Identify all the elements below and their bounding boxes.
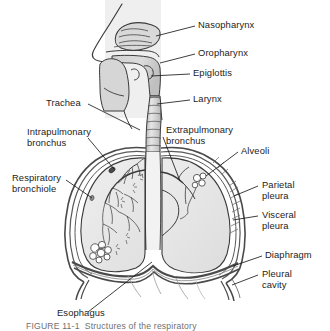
label-alveoli: Alveoli [241, 146, 269, 157]
right-recess-inner [221, 281, 229, 300]
label-visceral-pleura: Visceral pleura [262, 210, 296, 231]
left-recess [76, 282, 84, 300]
right-recess [226, 283, 234, 301]
left-lung-group [65, 148, 146, 283]
label-epiglottis: Epiglottis [193, 68, 232, 79]
label-respiratory-bronchiole: Respiratory bronchiole [12, 173, 61, 194]
label-larynx: Larynx [193, 94, 222, 105]
leader-nasopharynx [156, 26, 195, 36]
figure-caption: FIGURE 11-1 Structures of the respirator… [26, 321, 197, 331]
airway-column-group [145, 96, 161, 250]
label-trachea: Trachea [46, 98, 81, 109]
label-oropharynx: Oropharynx [198, 48, 248, 59]
right-lung-group [161, 148, 245, 284]
label-esophagus: Esophagus [57, 308, 105, 319]
tongue-oral-cavity [100, 59, 129, 111]
label-pleural-cavity: Pleural cavity [262, 269, 292, 290]
label-nasopharynx: Nasopharynx [198, 20, 254, 31]
leader-pleural-cavity [232, 275, 258, 285]
label-intrapulmonary-bronchus: Intrapulmonary bronchus [27, 127, 91, 148]
label-extrapulmonary-bronchus: Extrapulmonary bronchus [166, 125, 233, 146]
leader-intrapulmonary-bronchus [88, 138, 114, 169]
mediastinum-fill [146, 152, 161, 250]
left-recess-inner [81, 280, 89, 299]
leader-oropharynx [160, 54, 195, 63]
label-parietal-pleura: Parietal pleura [262, 180, 295, 201]
leader-larynx [157, 100, 190, 104]
label-diaphragm: Diaphragm [265, 250, 312, 261]
